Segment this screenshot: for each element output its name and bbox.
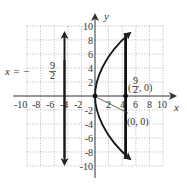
y-tick: -4 [85, 119, 93, 130]
x-tick: 6 [133, 99, 138, 110]
directrix-label: x = − 9 2 [4, 60, 56, 81]
x-tick: -10 [14, 99, 27, 110]
focus-label-close: , 0) [139, 82, 152, 94]
y-tick: -2 [85, 105, 93, 116]
y-tick: 6 [88, 49, 93, 60]
y-tick: -8 [85, 147, 93, 158]
x-tick: 10 [157, 99, 167, 110]
vertex-label: (0, 0) [127, 116, 149, 128]
y-tick: -6 [85, 133, 93, 144]
x-tick: 8 [147, 99, 152, 110]
y-tick: -10 [80, 161, 93, 172]
focus-label-den: 2 [133, 84, 138, 95]
directrix-label-den: 2 [50, 70, 55, 81]
focus-label-open: ( [128, 82, 132, 94]
focus-point [123, 94, 128, 99]
parabola-diagram: x y -10 -8 -6 -4 -2 2 4 6 8 10 10 8 6 4 … [0, 0, 187, 184]
y-tick: 4 [88, 63, 93, 74]
x-tick: -6 [46, 99, 54, 110]
focus-label: ( 9 2 , 0) [128, 75, 152, 95]
x-tick: -8 [32, 99, 40, 110]
x-axis-label: x [173, 101, 179, 113]
y-tick: 10 [83, 21, 93, 32]
y-axis-label: y [103, 10, 109, 22]
x-tick: -2 [74, 99, 82, 110]
directrix-label-prefix: x = − [4, 65, 30, 77]
y-tick: 2 [88, 77, 93, 88]
y-tick: 8 [88, 35, 93, 46]
